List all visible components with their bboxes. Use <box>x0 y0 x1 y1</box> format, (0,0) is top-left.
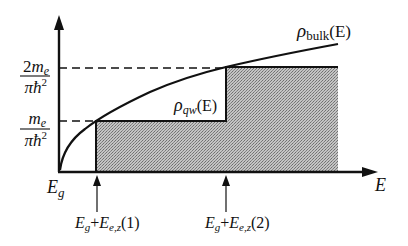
marker-arg: (2) <box>251 214 270 232</box>
marker-arrowhead-2-icon <box>222 175 230 186</box>
origin-sub: g <box>58 185 65 200</box>
dos-diagram: 2me πħ2 me πħ2 Eg E Eg+Ee,z(1) Eg+Ee,z(2… <box>0 0 408 246</box>
y-axis-arrow-icon <box>54 15 64 30</box>
curve-arg: (E) <box>197 97 217 115</box>
y-tick-label-me: me πħ2 <box>20 109 50 150</box>
origin-main: E <box>46 177 58 197</box>
svg-text:2me: 2me <box>23 57 50 78</box>
marker-arrowhead-1-icon <box>93 175 101 186</box>
curve-symbol: ρ <box>173 95 183 115</box>
tick-den-sup: 2 <box>42 129 48 141</box>
curve-arg: (E) <box>329 22 351 41</box>
tick-coef: 2 <box>23 57 32 76</box>
svg-text:πħ2: πħ2 <box>24 129 47 150</box>
tick-den-sup: 2 <box>42 76 48 88</box>
curve-sub: bulk <box>306 28 330 43</box>
bulk-curve-label: ρbulk(E) <box>296 20 351 43</box>
marker-a: E <box>74 214 85 231</box>
tick-den: πħ <box>24 78 41 97</box>
qw-curve-label: ρqw(E) <box>173 95 217 117</box>
marker-a: E <box>204 214 215 231</box>
tick-var: m <box>28 109 40 128</box>
curve-sub: qw <box>183 103 197 117</box>
marker-plus: + <box>220 214 229 231</box>
qw-dos-fill <box>96 67 338 172</box>
svg-text:me: me <box>28 109 46 130</box>
tick-sub: e <box>41 116 47 130</box>
marker-b: E <box>98 214 109 231</box>
marker-b: E <box>228 214 239 231</box>
marker-b-sub: e,z <box>239 221 252 233</box>
x-axis-label: E <box>374 175 386 195</box>
y-tick-label-2me: 2me πħ2 <box>20 57 50 97</box>
marker-arg: (1) <box>121 214 140 232</box>
tick-var: m <box>31 57 43 76</box>
origin-label: Eg <box>46 177 65 200</box>
svg-text:πħ2: πħ2 <box>24 76 47 97</box>
curve-symbol: ρ <box>296 20 306 41</box>
marker-plus: + <box>90 214 99 231</box>
marker-b-sub: e,z <box>109 221 122 233</box>
marker-label-2: Eg+Ee,z(2) <box>204 214 270 233</box>
tick-den: πħ <box>24 131 41 150</box>
marker-label-1: Eg+Ee,z(1) <box>74 214 140 233</box>
